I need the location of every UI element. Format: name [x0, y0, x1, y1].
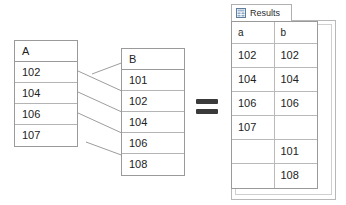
table-a-row: 104 [15, 83, 77, 104]
tab-results-label: Results [250, 8, 280, 18]
diagram-canvas: A 102 104 106 107 B 101 102 104 106 108 [0, 0, 346, 205]
results-cell-b: 101 [275, 140, 318, 163]
connector-line-b108 [86, 142, 124, 156]
table-a-header: A [15, 41, 77, 62]
results-cell-b: 108 [275, 164, 318, 188]
results-cell-b: 104 [275, 68, 318, 91]
results-grid[interactable]: a b 102 102 104 104 106 106 107 101 [231, 21, 318, 189]
results-cell-a: 107 [232, 116, 275, 139]
table-b-row: 101 [122, 70, 184, 91]
results-cell-a [232, 164, 275, 188]
equals-sign [196, 99, 218, 117]
equals-bar-top [196, 99, 218, 104]
connector-line-106 [78, 113, 124, 134]
results-row[interactable]: 102 102 [232, 44, 317, 68]
results-cell-b [275, 116, 318, 139]
table-b: B 101 102 104 106 108 [121, 48, 185, 176]
results-cell-a: 106 [232, 92, 275, 115]
table-b-row: 102 [122, 91, 184, 112]
results-row[interactable]: 107 [232, 116, 317, 140]
equals-bar-bottom [196, 109, 218, 114]
table-b-row: 106 [122, 133, 184, 154]
results-panel: Results a b 102 102 104 104 106 106 107 [231, 4, 339, 200]
table-b-row: 104 [122, 112, 184, 133]
table-a: A 102 104 106 107 [14, 40, 78, 147]
results-row[interactable]: 104 104 [232, 68, 317, 92]
results-cell-a [232, 140, 275, 163]
results-cell-a: 102 [232, 44, 275, 67]
results-cell-b: 106 [275, 92, 318, 115]
tab-results[interactable]: Results [231, 4, 292, 21]
results-row[interactable]: 101 [232, 140, 317, 164]
table-b-header: B [122, 49, 184, 70]
connector-line-102 [78, 71, 124, 92]
results-cell-a: 104 [232, 68, 275, 91]
results-grid-header-row: a b [232, 22, 317, 44]
table-a-row: 102 [15, 62, 77, 83]
table-b-row: 108 [122, 154, 184, 175]
table-a-row: 107 [15, 125, 77, 146]
connector-line-b101 [92, 62, 124, 74]
results-row[interactable]: 108 [232, 164, 317, 188]
results-row[interactable]: 106 106 [232, 92, 317, 116]
results-cell-b: 102 [275, 44, 318, 67]
table-a-row: 106 [15, 104, 77, 125]
grid-icon [236, 8, 246, 18]
results-column-header-a: a [232, 22, 275, 43]
connector-line-104 [78, 92, 124, 113]
results-column-header-b: b [275, 22, 318, 43]
